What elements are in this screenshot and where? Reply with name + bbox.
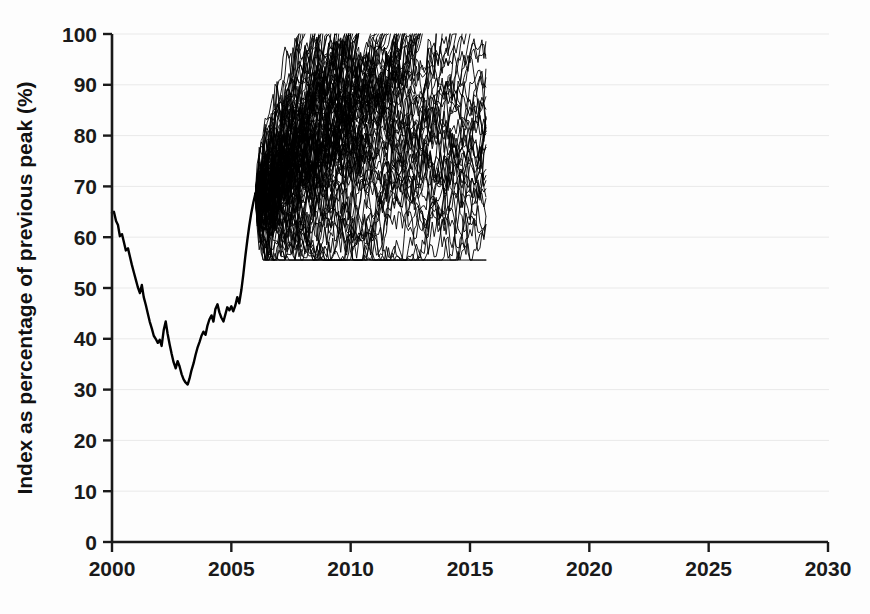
y-axis-tick-label: 100: [62, 23, 97, 46]
y-axis-tick-label: 80: [74, 124, 97, 147]
x-axis-tick-label: 2020: [566, 557, 613, 580]
historical-index-line: [112, 195, 255, 385]
x-axis-tick-labels-group: 2000200520102015202020252030: [89, 557, 852, 580]
y-axis-tick-label: 90: [74, 73, 97, 96]
y-axis-tick-label: 40: [74, 327, 97, 350]
y-axis-tick-label: 10: [74, 480, 97, 503]
y-axis-tick-label: 20: [74, 429, 97, 452]
x-axis-tick-label: 2005: [208, 557, 255, 580]
y-axis-ticks-group: [103, 34, 112, 542]
y-axis-tick-label: 30: [74, 378, 97, 401]
y-axis-title: Index as percentage of previous peak (%): [13, 81, 36, 494]
line-chart: 0102030405060708090100 20002005201020152…: [0, 0, 870, 614]
x-axis-tick-label: 2010: [327, 557, 374, 580]
y-axis-tick-label: 70: [74, 175, 97, 198]
x-axis-tick-label: 2025: [685, 557, 732, 580]
x-axis-ticks-group: [112, 542, 828, 552]
y-axis-tick-label: 0: [85, 531, 97, 554]
x-axis-tick-label: 2000: [89, 557, 136, 580]
y-axis-tick-label: 60: [74, 226, 97, 249]
y-axis-tick-label: 50: [74, 277, 97, 300]
x-axis-tick-label: 2015: [447, 557, 494, 580]
x-axis-tick-label: 2030: [805, 557, 852, 580]
projection-fan-group: [255, 34, 486, 260]
y-axis-tick-labels-group: 0102030405060708090100: [62, 23, 97, 554]
chart-container: 0102030405060708090100 20002005201020152…: [0, 0, 870, 614]
